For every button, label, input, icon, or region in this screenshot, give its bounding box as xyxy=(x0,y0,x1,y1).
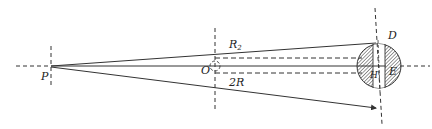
label-e: E xyxy=(388,65,397,78)
label-d: D xyxy=(387,29,397,42)
label-r2: R2 xyxy=(228,38,242,52)
label-o: O xyxy=(201,64,210,77)
label-p: P xyxy=(40,70,49,83)
diagram-canvas: P O D E H R2 2R xyxy=(0,0,432,129)
label-h: H xyxy=(369,70,378,80)
ray-upper xyxy=(51,43,376,66)
label-2r: 2R xyxy=(228,76,244,89)
